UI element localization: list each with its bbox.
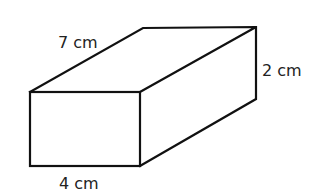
height-label: 2 cm — [262, 61, 302, 80]
right-face — [140, 27, 256, 166]
cuboid-diagram: 7 cm 2 cm 4 cm — [0, 0, 312, 194]
length-label: 7 cm — [58, 33, 98, 52]
width-label: 4 cm — [59, 174, 99, 193]
front-face — [30, 92, 140, 166]
